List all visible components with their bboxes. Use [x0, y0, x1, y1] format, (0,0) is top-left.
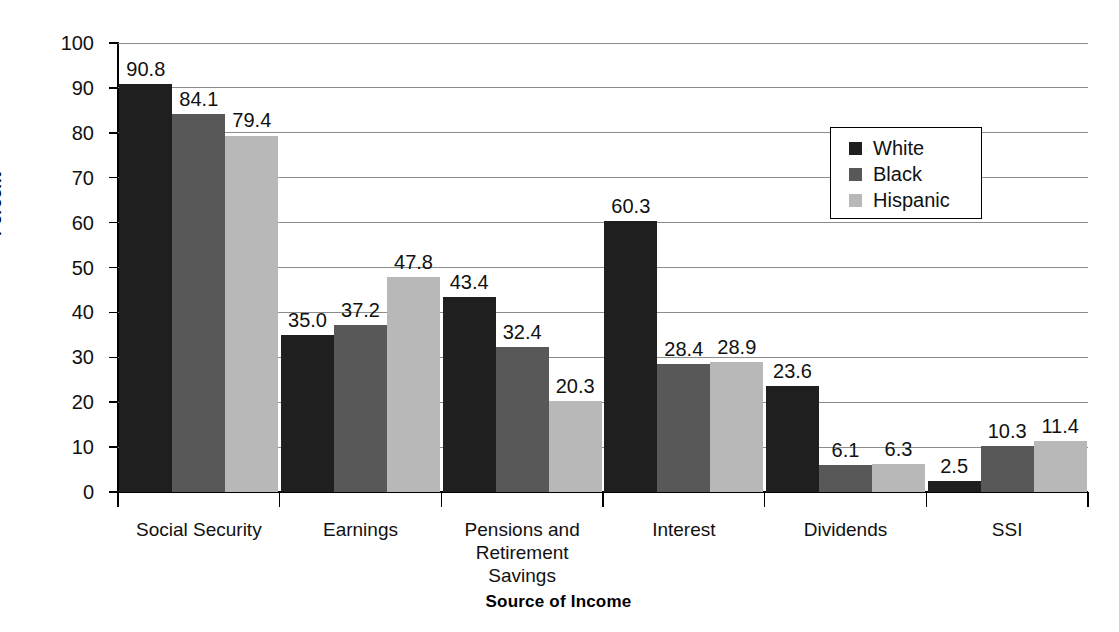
bar-value-label: 37.2: [322, 300, 399, 320]
y-axis-tick-label: 100: [28, 33, 94, 53]
legend-label: Hispanic: [873, 190, 950, 210]
bar-black-1: [334, 325, 387, 492]
category-label-line: Savings: [423, 564, 621, 587]
bar-value-label: 43.4: [431, 272, 508, 292]
legend-label: White: [873, 138, 924, 158]
legend-item-white[interactable]: White: [849, 135, 981, 161]
legend-swatch-icon: [849, 168, 862, 181]
bar-value-label: 20.3: [537, 376, 614, 396]
legend: White Black Hispanic: [830, 127, 982, 219]
gridline: [118, 87, 1088, 88]
legend-item-black[interactable]: Black: [849, 161, 981, 187]
category-separator-tick: [764, 492, 766, 507]
bar-value-label: 11.4: [1022, 416, 1099, 436]
bar-value-label: 79.4: [213, 110, 290, 130]
bar-value-label: 23.6: [754, 361, 831, 381]
legend-label: Black: [873, 164, 922, 184]
bar-black-0: [172, 114, 225, 492]
y-axis-tick-label: 0: [28, 482, 94, 502]
bar-chart: Percent 0102030405060708090100 90.884.17…: [0, 0, 1119, 632]
bar-white-5: [928, 481, 981, 492]
bar-hispanic-2: [549, 401, 602, 492]
bar-black-3: [657, 364, 710, 492]
category-label: SSI: [908, 518, 1106, 541]
legend-swatch-icon: [849, 142, 862, 155]
bar-hispanic-5: [1034, 441, 1087, 492]
y-axis-tick-label: 20: [28, 392, 94, 412]
y-axis-tick-label: 70: [28, 168, 94, 188]
category-separator-tick: [117, 492, 119, 507]
legend-item-hispanic[interactable]: Hispanic: [849, 187, 981, 213]
bar-value-label: 32.4: [484, 322, 561, 342]
category-label-line: Retirement: [423, 541, 621, 564]
bar-value-label: 47.8: [375, 252, 452, 272]
y-axis-tick-label: 80: [28, 123, 94, 143]
category-separator-tick: [279, 492, 281, 507]
bar-black-2: [496, 347, 549, 492]
bar-black-4: [819, 465, 872, 492]
category-separator-tick: [602, 492, 604, 507]
y-axis-title: Percent: [0, 172, 6, 236]
bar-value-label: 2.5: [916, 456, 993, 476]
y-axis-tick-label: 10: [28, 437, 94, 457]
y-axis-tick-label: 90: [28, 78, 94, 98]
bar-value-label: 90.8: [107, 59, 184, 79]
legend-swatch-icon: [849, 194, 862, 207]
bar-white-0: [119, 84, 172, 492]
gridline: [118, 43, 1088, 44]
y-axis-tick-label: 40: [28, 302, 94, 322]
category-separator-tick: [926, 492, 928, 507]
y-axis-tick-label: 30: [28, 347, 94, 367]
bar-value-label: 60.3: [592, 196, 669, 216]
x-axis-title-text: Source of Income: [486, 592, 632, 612]
bar-value-label: 84.1: [160, 89, 237, 109]
y-axis-tick-label: 60: [28, 213, 94, 233]
category-label-line: SSI: [908, 518, 1106, 541]
category-separator-tick: [1087, 492, 1089, 507]
x-axis-title: Source of Income: [0, 592, 1119, 612]
bar-hispanic-3: [710, 362, 763, 492]
bar-value-label: 28.9: [698, 337, 775, 357]
category-separator-tick: [441, 492, 443, 507]
bar-white-1: [281, 335, 334, 492]
y-axis-tick-label: 50: [28, 258, 94, 278]
